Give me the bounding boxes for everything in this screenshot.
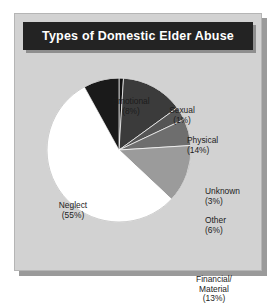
- slice-label-physical-pct: (14%): [187, 146, 247, 156]
- chart-panel: Types of Domestic Elder Abuse Emotional …: [14, 13, 262, 271]
- slice-label-financial-material: Financial/ Material (13%): [183, 275, 245, 304]
- slice-label-sexual-name: Sexual: [169, 105, 195, 115]
- page-title: Types of Domestic Elder Abuse: [42, 29, 234, 43]
- slice-label-sexual: Sexual (1%): [159, 106, 205, 125]
- slice-label-emotional-name: Emotional: [112, 96, 149, 106]
- slice-label-unknown: Unknown (3%): [205, 187, 263, 206]
- pie-chart-plot-area: Emotional (8%) Sexual (1%) Physical (14%…: [15, 50, 261, 270]
- slice-label-neglect-name: Neglect: [59, 200, 87, 210]
- slice-label-neglect-pct: (55%): [45, 211, 101, 221]
- slice-label-neglect: Neglect (55%): [45, 201, 101, 220]
- slice-label-unknown-name: Unknown: [205, 186, 240, 196]
- slice-label-other-pct: (6%): [205, 226, 251, 236]
- slice-label-sexual-pct: (1%): [159, 116, 205, 126]
- slice-label-other-name: Other: [205, 215, 226, 225]
- slice-label-unknown-pct: (3%): [205, 197, 263, 207]
- slice-label-physical: Physical (14%): [187, 136, 247, 155]
- slice-label-emotional: Emotional (8%): [103, 97, 159, 116]
- slice-label-financial-pct: (13%): [183, 294, 245, 304]
- pie-chart-svg: [15, 50, 261, 270]
- slice-label-financial-line1: Financial/: [196, 274, 232, 284]
- title-bar: Types of Domestic Elder Abuse: [23, 22, 253, 50]
- slice-label-other: Other (6%): [205, 216, 251, 235]
- slice-label-physical-name: Physical: [187, 135, 218, 145]
- slice-label-emotional-pct: (8%): [103, 107, 159, 117]
